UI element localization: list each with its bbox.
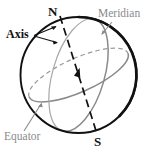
meridian-label: Meridian (98, 7, 140, 19)
south-pole-label: S (94, 134, 101, 149)
north-pole-label: N (48, 4, 58, 19)
axis-label: Axis (6, 27, 29, 41)
celestial-sphere-figure: N S Axis Meridian Equator (0, 0, 152, 153)
sphere-diagram-svg: N S Axis Meridian Equator (0, 0, 152, 153)
equator-label: Equator (4, 130, 41, 143)
sphere-center-dot (77, 73, 79, 75)
